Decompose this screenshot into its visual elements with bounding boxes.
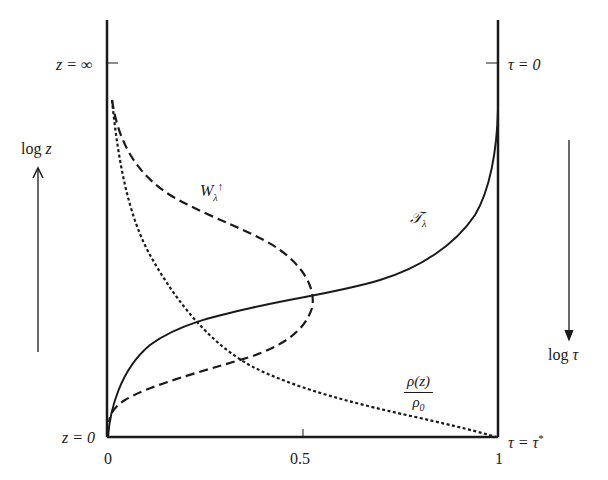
rho-curve [112, 100, 496, 437]
t-main: 𝒯 [410, 209, 422, 226]
log-tau-log: log [548, 346, 572, 363]
rho-denominator: ρ0 [404, 393, 433, 413]
t-curve-label: 𝒯λ [410, 210, 426, 232]
rho-curve-label: ρ(z) ρ0 [404, 373, 433, 413]
z-infinity-text: z = ∞ [56, 56, 92, 73]
tau-zero-label: τ = 0 [508, 57, 541, 73]
w-curve-label: Wλ↑ [200, 178, 223, 206]
log-tau-var: τ [572, 346, 578, 363]
rho-den-sub: 0 [420, 402, 425, 413]
rho-den-main: ρ [412, 394, 419, 410]
tau-star-label: τ = τ* [508, 430, 544, 451]
z-zero-label: z = 0 [62, 430, 95, 446]
log-tau-label: log τ [548, 347, 578, 363]
x-tick-label-1: 1 [495, 450, 503, 468]
w-curve [109, 100, 313, 422]
tau-zero-text: τ = 0 [508, 56, 541, 73]
z-zero-text: z = 0 [62, 429, 95, 446]
t-sub: λ [422, 218, 426, 229]
tau-star-sup: * [538, 432, 544, 444]
tau-star-text: τ = τ [508, 434, 538, 451]
x-tick-label-0: 0 [104, 450, 112, 468]
x-tick-label-half: 0.5 [290, 450, 310, 468]
w-sup-arrow-icon: ↑ [218, 180, 224, 192]
w-sub: λ [213, 192, 217, 203]
z-infinity-label: z = ∞ [56, 57, 92, 73]
w-main: W [200, 182, 213, 199]
log-z-log: log [21, 140, 45, 157]
rho-numerator: ρ(z) [404, 373, 433, 393]
log-z-var: z [45, 140, 51, 157]
log-z-label: log z [21, 141, 52, 157]
down-arrow-icon [565, 330, 573, 340]
